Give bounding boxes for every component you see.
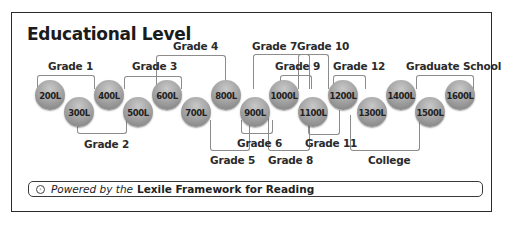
lexile-1300l: 1300L [357,97,387,127]
label-grade-3: Grade 3 [132,60,177,72]
label-grade-7: Grade 7 [252,40,297,52]
powered-by-banner[interactable]: › Powered by the Lexile Framework for Re… [28,181,483,197]
lexile-500l: 500L [123,97,153,127]
diagram-title: Educational Level [27,24,191,44]
label-grade-12: Grade 12 [333,60,385,72]
lexile-700l: 700L [181,97,211,127]
lexile-1200l: 1200L [328,80,358,110]
label-college: College [368,154,410,166]
label-grade-4: Grade 4 [173,40,218,52]
lexile-1100l: 1100L [298,97,328,127]
lexile-1500l: 1500L [415,97,445,127]
lexile-framework-link[interactable]: Lexile Framework for Reading [137,183,314,195]
lexile-200l: 200L [35,80,65,110]
label-grade-9: Grade 9 [275,60,320,72]
label-grade-11: Grade 11 [305,137,357,149]
lexile-800l: 800L [211,80,241,110]
label-grade-8: Grade 8 [268,154,313,166]
lexile-1600l: 1600L [445,80,475,110]
lexile-1000l: 1000L [269,80,299,110]
lexile-400l: 400L [94,80,124,110]
label-graduate-school: Graduate School [406,60,501,72]
lexile-600l: 600L [152,80,182,110]
lexile-1400l: 1400L [386,80,416,110]
lexile-900l: 900L [240,97,270,127]
label-grade-10: Grade 10 [297,40,349,52]
label-grade-5: Grade 5 [210,154,255,166]
label-grade-2: Grade 2 [84,138,129,150]
label-grade-6: Grade 6 [237,137,282,149]
label-grade-1: Grade 1 [48,60,93,72]
lexile-300l: 300L [64,97,94,127]
circle-arrow-icon: › [36,185,45,194]
powered-by-prefix: Powered by the [51,183,133,195]
